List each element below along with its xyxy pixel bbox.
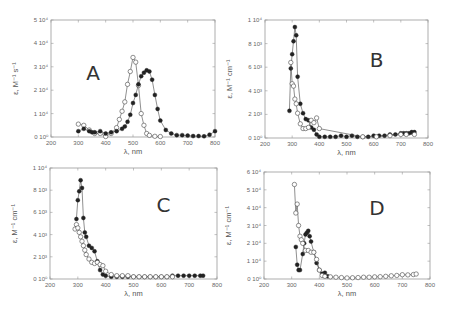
x-tick-label: 400 (314, 282, 325, 288)
y-tick-label: 4 10⁴ (34, 40, 49, 46)
y-tick-label: 2 10³ (33, 254, 47, 260)
filled-circle-marker (298, 102, 302, 106)
filled-circle-marker (191, 134, 195, 138)
panel-letter: B (370, 48, 384, 72)
open-circle-marker (317, 268, 321, 272)
y-tick-label: 5 10⁴ (247, 187, 262, 193)
y-tick-label: 1 10⁴ (34, 111, 49, 117)
filled-circle-marker (293, 25, 297, 29)
open-circle-marker (291, 84, 295, 88)
y-tick-label: 8 10³ (33, 187, 47, 193)
open-circle-marker (126, 273, 130, 277)
open-circle-marker (159, 275, 163, 279)
filled-circle-marker (115, 129, 119, 133)
filled-circle-marker (292, 39, 296, 43)
open-circle-marker (339, 275, 343, 279)
panel-letter: A (86, 61, 100, 85)
filled-circle-marker (339, 134, 343, 138)
open-circle-marker (120, 273, 124, 277)
x-axis-label: λ, nm (124, 289, 142, 298)
filled-circle-marker (312, 128, 316, 132)
x-tick-label: 700 (396, 141, 407, 147)
x-tick-label: 300 (73, 282, 84, 288)
filled-circle-marker (202, 134, 206, 138)
filled-circle-marker (187, 274, 191, 278)
filled-circle-marker (104, 131, 108, 135)
filled-circle-marker (182, 274, 186, 278)
filled-circle-marker (296, 75, 300, 79)
filled-circle-marker (294, 33, 298, 37)
series-line-open (75, 225, 173, 277)
x-tick-label: 500 (341, 141, 352, 147)
y-tick-label: 5 10⁴ (34, 17, 49, 23)
open-circle-marker (367, 275, 371, 279)
open-circle-marker (400, 273, 404, 277)
filled-circle-marker (393, 132, 397, 136)
filled-circle-marker (104, 274, 108, 278)
plot-frame (51, 20, 215, 137)
x-tick-label: 400 (101, 140, 112, 146)
filled-circle-marker (90, 246, 94, 250)
open-circle-marker (414, 272, 418, 276)
filled-circle-marker (83, 230, 87, 234)
x-tick-label: 800 (212, 282, 223, 288)
x-axis-label: λ, nm (124, 147, 142, 156)
filled-circle-marker (76, 129, 80, 133)
open-circle-marker (323, 274, 327, 278)
chart-panel-c: 2003004005006007008000 10⁰2 10³4 10³6 10… (10, 165, 223, 298)
x-tick-label: 500 (342, 282, 353, 288)
open-circle-marker (131, 55, 135, 59)
filled-circle-marker (345, 135, 349, 139)
y-tick-label: 2 10³ (248, 111, 262, 117)
x-tick-label: 200 (46, 140, 57, 146)
filled-circle-marker (169, 131, 173, 135)
open-circle-marker (125, 82, 129, 86)
y-tick-label: 3 10⁴ (247, 223, 262, 229)
x-tick-label: 500 (128, 282, 139, 288)
filled-circle-marker (74, 217, 78, 221)
filled-circle-marker (131, 101, 135, 105)
open-circle-marker (83, 248, 87, 252)
filled-circle-marker (123, 124, 127, 128)
open-circle-marker (128, 69, 132, 73)
filled-circle-marker (186, 134, 190, 138)
y-axis-label: ε, M⁻¹ s⁻¹ (11, 62, 20, 95)
open-circle-marker (154, 275, 158, 279)
open-circle-marker (314, 257, 318, 261)
panel-letter: C (157, 193, 171, 217)
filled-circle-marker (80, 186, 84, 190)
open-circle-marker (81, 244, 85, 248)
filled-circle-marker (294, 245, 298, 249)
y-tick-label: 6 10⁴ (247, 169, 262, 175)
open-circle-marker (117, 117, 121, 121)
open-circle-marker (295, 111, 299, 115)
x-tick-label: 600 (369, 141, 380, 147)
x-tick-label: 800 (423, 141, 434, 147)
filled-circle-marker (175, 133, 179, 137)
filled-circle-marker (287, 109, 291, 113)
open-circle-marker (389, 274, 393, 278)
filled-circle-marker (109, 130, 113, 134)
open-circle-marker (153, 134, 157, 138)
filled-circle-marker (301, 111, 305, 115)
filled-circle-marker (150, 78, 154, 82)
y-axis-label: ε, M⁻¹ cm⁻¹ (224, 206, 233, 245)
x-tick-label: 300 (287, 282, 298, 288)
filled-circle-marker (295, 263, 299, 267)
filled-circle-marker (98, 129, 102, 133)
open-circle-marker (378, 274, 382, 278)
open-circle-marker (294, 102, 298, 106)
x-tick-label: 200 (259, 282, 270, 288)
filled-circle-marker (164, 128, 168, 132)
x-tick-label: 700 (183, 140, 194, 146)
filled-circle-marker (201, 274, 205, 278)
open-circle-marker (317, 126, 321, 130)
y-tick-label: 4 10³ (248, 88, 262, 94)
y-axis-label: ε, M⁻¹ cm⁻¹ (225, 59, 234, 98)
plot-frame (265, 20, 428, 138)
open-circle-marker (312, 120, 316, 124)
y-axis-label: ε, M⁻¹ cm⁻¹ (10, 204, 19, 243)
y-tick-label: 2 10⁴ (34, 87, 49, 93)
open-circle-marker (165, 275, 169, 279)
open-circle-marker (76, 226, 80, 230)
